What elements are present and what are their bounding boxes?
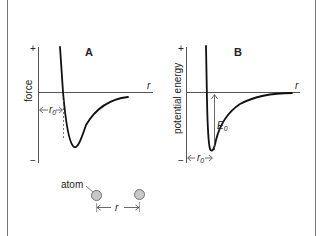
- separation-label: r: [115, 202, 119, 213]
- panel-a-force-plot: + − A r force r0: [23, 43, 153, 166]
- interatomic-force-diagram: + − A r force r0 + − B r potential energ…: [0, 0, 321, 236]
- panel-b-minus-sign: −: [178, 155, 184, 166]
- panel-a-y-label: force: [23, 79, 34, 102]
- panel-b-potential-energy-plot: + − B r potential energy E0 r0: [172, 43, 300, 166]
- panel-a-title: A: [85, 46, 93, 58]
- panel-a-x-label: r: [147, 80, 151, 91]
- panel-b-plus-sign: +: [178, 43, 184, 54]
- panel-a-minus-sign: −: [30, 155, 36, 166]
- panel-b-potential-curve: [206, 46, 292, 151]
- panel-b-x-label: r: [295, 80, 299, 91]
- panel-a-plus-sign: +: [30, 43, 36, 54]
- panel-a-r0-label: r0: [49, 104, 56, 116]
- panel-a-force-curve: [60, 47, 128, 147]
- atom-leader-line: [86, 186, 93, 192]
- atom-left: [92, 191, 102, 201]
- panel-b-e0-label: E0: [217, 120, 228, 132]
- atom-right: [135, 190, 145, 200]
- panel-b-y-label: potential energy: [172, 63, 183, 134]
- atom-label: atom: [61, 179, 83, 190]
- atom-pair-diagram: atom r: [61, 179, 145, 213]
- panel-b-title: B: [234, 46, 242, 58]
- panel-b-r0-label: r0: [197, 152, 204, 164]
